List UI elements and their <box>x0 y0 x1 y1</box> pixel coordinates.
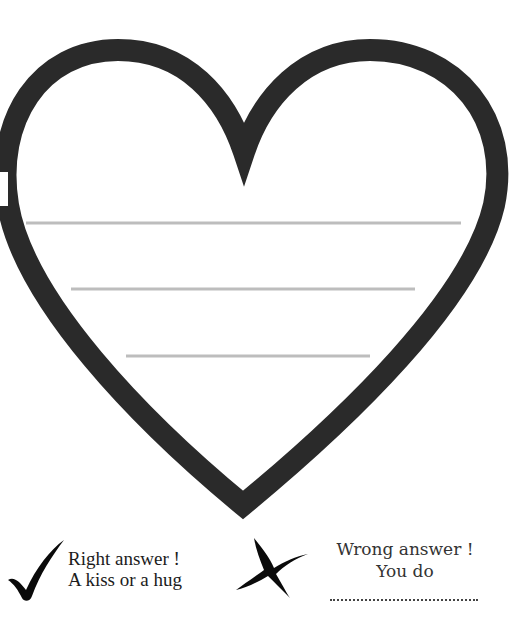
wrong-answer-label: Wrong answer ! You do <box>320 538 490 582</box>
cross-icon <box>234 534 310 600</box>
left-edge-gap <box>0 172 8 206</box>
answer-blank-line[interactable] <box>330 599 478 601</box>
wrong-answer-title: Wrong answer ! <box>320 538 490 560</box>
heart-outline <box>0 0 527 520</box>
heart-shape <box>6 50 498 505</box>
right-answer-label: Right answer ! A kiss or a hug <box>68 548 182 590</box>
wrong-answer-consequence: You do <box>320 560 490 582</box>
right-answer-title: Right answer ! <box>68 548 182 569</box>
checkmark-icon <box>6 538 66 602</box>
right-answer-reward: A kiss or a hug <box>68 569 182 590</box>
